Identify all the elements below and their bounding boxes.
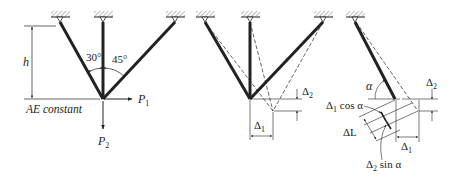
ae-constant-note: AE constant [25, 103, 83, 115]
angle-arc-30 [88, 68, 103, 72]
support [346, 11, 365, 22]
support-middle [94, 11, 113, 22]
deformed-bar [356, 22, 418, 111]
height-label: h [23, 55, 29, 69]
support-right [314, 11, 333, 22]
figure-a: h 30° 45° P1 P2 AE constant [23, 11, 185, 150]
bar [355, 22, 395, 99]
figure-b: Δ2 Δ1 [196, 11, 333, 140]
angle-30-label: 30° [86, 51, 101, 63]
delta2-sin-alpha-label: Δ2 sin α [366, 158, 401, 173]
diagram-svg: h 30° 45° P1 P2 AE constant [0, 0, 459, 179]
deformed-shape [205, 22, 323, 111]
alpha-label: α [366, 79, 373, 93]
delta-2-label: Δ2 [302, 85, 313, 100]
support-middle [241, 11, 260, 22]
support-left [196, 11, 215, 22]
figure-c: α Δ2 Δ1 ΔL Δ1 cos α Δ2 sin α [326, 11, 438, 173]
load-p2-label: P2 [97, 134, 109, 150]
delta-1-label: Δ1 [254, 119, 265, 134]
truss-displacement-diagram: h 30° 45° P1 P2 AE constant [0, 0, 459, 179]
bar-left [205, 22, 250, 99]
support-left [51, 11, 70, 22]
alpha-arc [375, 80, 385, 99]
angle-arc-45 [103, 68, 125, 77]
delta-1-label: Δ1 [401, 140, 412, 155]
delta1-cos-alpha-label: Δ1 cos α [326, 99, 363, 114]
support-right [166, 11, 185, 22]
projection-lines [359, 100, 418, 141]
load-p1-label: P1 [137, 92, 149, 108]
delta-l-label: ΔL [343, 126, 357, 138]
delta-2-label: Δ2 [426, 76, 437, 91]
angle-45-label: 45° [112, 53, 127, 65]
